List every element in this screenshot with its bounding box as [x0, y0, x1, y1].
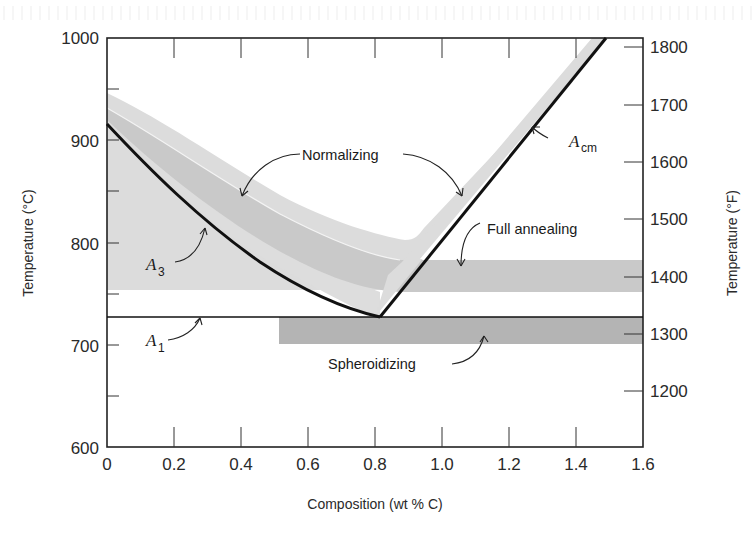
- a1-label: A 1: [145, 331, 165, 355]
- svg-text:1: 1: [158, 341, 165, 355]
- svg-text:1.2: 1.2: [497, 455, 521, 474]
- svg-text:0.6: 0.6: [296, 455, 320, 474]
- left-tick-labels: 1000 900 800 700 600: [61, 29, 99, 458]
- y-left-axis-title: Temperature (°C): [20, 189, 36, 297]
- svg-text:0.8: 0.8: [363, 455, 387, 474]
- svg-text:1.6: 1.6: [631, 455, 655, 474]
- svg-text:1700: 1700: [650, 96, 688, 115]
- svg-text:0: 0: [102, 455, 111, 474]
- spheroidizing-region: [279, 317, 643, 344]
- full-annealing-label: Full annealing: [487, 221, 577, 237]
- heat-treatment-diagram: Normalizing Full annealing Spheroidizing…: [0, 0, 753, 534]
- x-axis-title: Composition (wt % C): [307, 496, 442, 512]
- svg-text:A: A: [145, 331, 157, 350]
- normalizing-label: Normalizing: [302, 147, 379, 163]
- svg-text:1.4: 1.4: [564, 455, 588, 474]
- svg-text:0.2: 0.2: [162, 455, 186, 474]
- svg-text:1400: 1400: [650, 268, 688, 287]
- svg-text:A: A: [568, 132, 580, 151]
- svg-text:800: 800: [71, 235, 99, 254]
- svg-text:1000: 1000: [61, 29, 99, 48]
- svg-text:A: A: [145, 255, 157, 274]
- svg-text:700: 700: [71, 337, 99, 356]
- svg-text:cm: cm: [581, 141, 597, 155]
- right-tick-labels: 1800 1700 1600 1500 1400 1300 1200: [650, 38, 688, 401]
- svg-text:1800: 1800: [650, 38, 688, 57]
- svg-text:1.0: 1.0: [430, 455, 454, 474]
- svg-text:600: 600: [71, 439, 99, 458]
- svg-text:900: 900: [71, 132, 99, 151]
- acm-right-white-lower: [384, 292, 643, 316]
- svg-text:1200: 1200: [650, 382, 688, 401]
- y-right-axis-title: Temperature (°F): [724, 190, 740, 296]
- top-ticks: [174, 38, 576, 58]
- spheroidizing-label: Spheroidizing: [328, 356, 416, 372]
- svg-text:0.4: 0.4: [229, 455, 253, 474]
- svg-text:1500: 1500: [650, 210, 688, 229]
- bottom-tick-labels: 0 0.2 0.4 0.6 0.8 1.0 1.2 1.4 1.6: [102, 455, 655, 474]
- svg-text:3: 3: [158, 265, 165, 279]
- bottom-ticks: [174, 427, 576, 447]
- svg-text:1600: 1600: [650, 153, 688, 172]
- svg-text:1300: 1300: [650, 325, 688, 344]
